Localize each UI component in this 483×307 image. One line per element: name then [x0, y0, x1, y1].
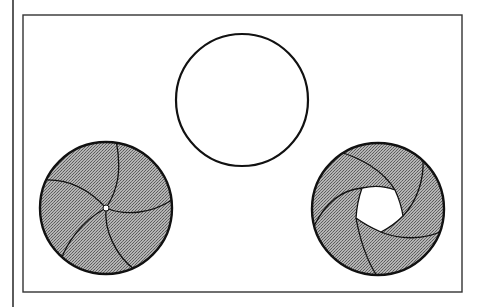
aperture-nearly-closed	[40, 140, 172, 274]
iris-pinhole	[103, 205, 109, 211]
aperture-open	[176, 34, 308, 166]
diagram-canvas	[0, 0, 483, 307]
iris-diagram: Iris diaphragm aperture states	[0, 0, 483, 307]
aperture-partially-open	[312, 143, 444, 276]
